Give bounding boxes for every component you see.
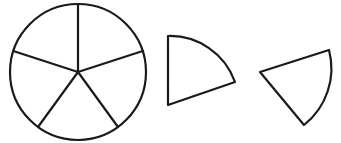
circle-spoke	[13, 51, 78, 72]
diagram-canvas	[0, 0, 341, 143]
circle-spoke	[78, 51, 143, 72]
sector-piece-1	[168, 36, 235, 105]
circle-spoke	[38, 72, 78, 127]
divided-circle	[10, 4, 146, 140]
circle-spoke	[78, 72, 118, 127]
sector-piece-2	[260, 50, 331, 125]
